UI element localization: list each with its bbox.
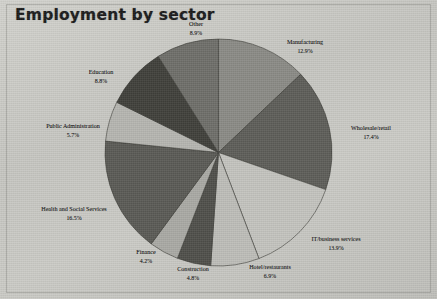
slice-label-hotel-restaurants-pct: 6.9% [249, 272, 291, 281]
pie-chart [0, 0, 437, 299]
slice-label-other-name: Other [189, 21, 203, 27]
slice-label-health-and-social-services: Health and Social Services 16.5% [41, 205, 107, 224]
slice-label-wholesale-retail: Wholesale/retail 17.4% [351, 124, 391, 143]
pie-slices [105, 39, 332, 266]
slice-label-hotel-restaurants: Hotel/restaurants 6.9% [249, 263, 291, 282]
slice-label-public-administration-name: Public Administration [46, 123, 100, 129]
slice-label-public-administration-pct: 5.7% [46, 131, 100, 140]
slice-label-education-pct: 8.8% [89, 77, 114, 86]
slice-label-health-and-social-services-name: Health and Social Services [41, 206, 107, 212]
slice-label-education-name: Education [89, 69, 114, 75]
document-page: Employment by sector Other 8.9% Manufact… [0, 0, 437, 299]
slice-label-finance-name: Finance [136, 249, 155, 255]
slice-label-construction-name: Construction [177, 266, 208, 272]
slice-label-finance-pct: 4.2% [136, 257, 155, 266]
slice-label-finance: Finance 4.2% [136, 248, 155, 267]
slice-label-it-business-services-name: IT/business services [311, 236, 360, 242]
slice-label-it-business-services-pct: 13.9% [311, 244, 360, 253]
slice-label-manufacturing: Manufacturing 12.9% [287, 38, 323, 57]
slice-label-manufacturing-pct: 12.9% [287, 47, 323, 56]
slice-label-public-administration: Public Administration 5.7% [46, 122, 100, 141]
slice-label-wholesale-retail-name: Wholesale/retail [351, 125, 391, 131]
slice-label-other-pct: 8.9% [189, 29, 203, 38]
slice-label-hotel-restaurants-name: Hotel/restaurants [249, 264, 291, 270]
slice-label-construction-pct: 4.8% [177, 274, 208, 283]
slice-label-other: Other 8.9% [189, 20, 203, 39]
slice-label-it-business-services: IT/business services 13.9% [311, 235, 360, 254]
slice-label-construction: Construction 4.8% [177, 265, 208, 284]
pie-chart-svg [0, 0, 437, 299]
slice-label-health-and-social-services-pct: 16.5% [41, 214, 107, 223]
slice-label-education: Education 8.8% [89, 68, 114, 87]
slice-label-manufacturing-name: Manufacturing [287, 39, 323, 45]
slice-label-wholesale-retail-pct: 17.4% [351, 133, 391, 142]
